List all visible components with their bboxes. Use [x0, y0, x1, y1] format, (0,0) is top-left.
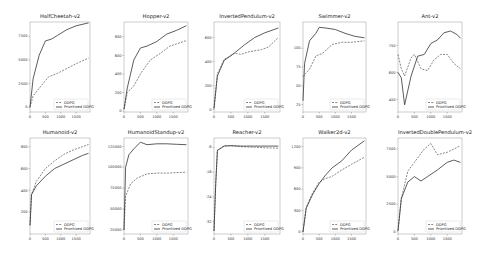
- plot-area: 0500100015000250050007500DDPGPrioritized…: [0, 0, 477, 254]
- svg-text:Prioritized DDPG: Prioritized DDPG: [436, 227, 466, 231]
- svg-text:1500: 1500: [443, 237, 453, 241]
- svg-text:1000: 1000: [426, 237, 436, 241]
- svg-text:500: 500: [411, 237, 419, 241]
- svg-text:0: 0: [397, 237, 400, 241]
- svg-text:7500: 7500: [386, 147, 396, 151]
- series-prioritized-ddpg-line: [398, 160, 460, 231]
- svg-text:DDPG: DDPG: [436, 223, 447, 227]
- svg-text:0: 0: [393, 230, 396, 234]
- svg-text:2500: 2500: [386, 202, 396, 206]
- series-ddpg-line: [398, 144, 460, 231]
- svg-text:5000: 5000: [386, 175, 396, 179]
